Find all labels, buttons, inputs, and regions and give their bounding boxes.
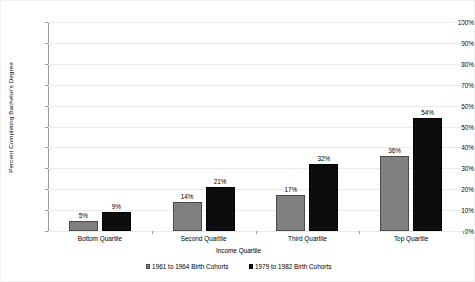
bar-value-label: 21% (214, 178, 227, 185)
gridline (48, 127, 463, 128)
gridline (48, 22, 463, 23)
x-axis-title: Income Quartile (1, 247, 475, 254)
y-axis-title: Percent Completing Bachelor's Degree (1, 1, 19, 233)
bar-value-label: 54% (421, 109, 434, 116)
bar (309, 164, 338, 231)
x-axis-category-label: Top Quartile (394, 235, 428, 242)
y-axis-title-text: Percent Completing Bachelor's Degree (7, 62, 14, 172)
legend-swatch-icon (146, 264, 151, 269)
legend-item[interactable]: 1979 to 1982 Birth Cohorts (249, 263, 332, 270)
legend-item[interactable]: 1961 to 1964 Birth Cohorts (146, 263, 229, 270)
gridline (48, 64, 463, 65)
bar (380, 156, 409, 231)
x-axis-category-label: Second Quartile (181, 235, 227, 242)
x-axis-tick-mark (359, 231, 360, 234)
bar-value-label: 17% (284, 186, 297, 193)
legend-label: 1979 to 1982 Birth Cohorts (255, 263, 331, 270)
bar-value-label: 14% (181, 193, 194, 200)
bar-value-label: 32% (317, 155, 330, 162)
bar (413, 118, 442, 231)
bar (102, 212, 131, 231)
bar-value-label: 36% (388, 147, 401, 154)
x-axis-tick-mark (463, 231, 464, 234)
x-axis-tick-mark (152, 231, 153, 234)
gridline (48, 85, 463, 86)
bar (276, 195, 305, 231)
plot-area (48, 22, 463, 231)
x-axis-tick-mark (256, 231, 257, 234)
chart-legend: 1961 to 1964 Birth Cohorts1979 to 1982 B… (1, 263, 475, 270)
bar (206, 187, 235, 231)
x-axis-category-label: Third Quartile (288, 235, 327, 242)
legend-label: 1961 to 1964 Birth Cohorts (152, 263, 228, 270)
bar-chart: Percent Completing Bachelor's Degree 0%1… (0, 0, 475, 282)
bar-value-label: 5% (79, 212, 88, 219)
gridline (48, 106, 463, 107)
legend-swatch-icon (249, 264, 254, 269)
bar-value-label: 9% (112, 203, 121, 210)
x-axis-category-label: Bottom Quartile (78, 235, 122, 242)
bar (69, 221, 98, 231)
gridline (48, 43, 463, 44)
bar (173, 202, 202, 231)
